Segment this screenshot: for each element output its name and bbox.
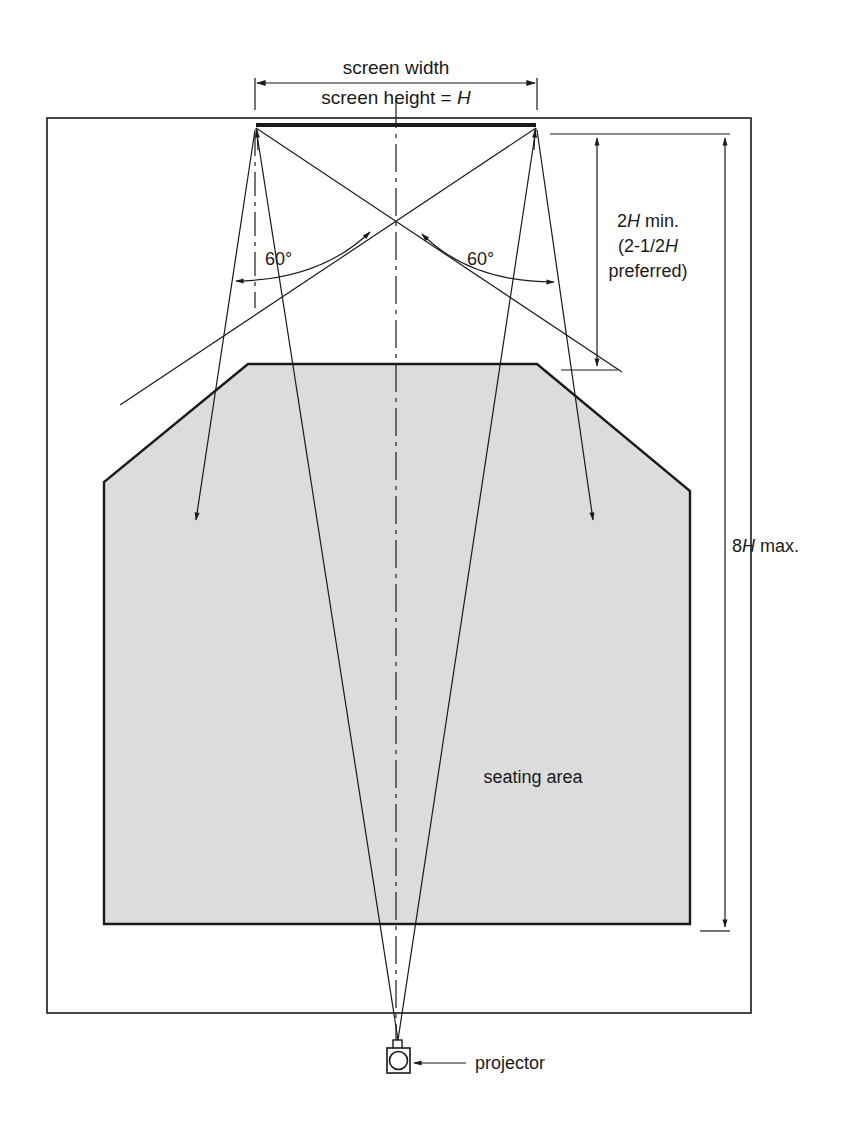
angle-label-right: 60° [467, 249, 494, 269]
projector-label: projector [475, 1053, 545, 1073]
sight-line-left-to-right [256, 128, 622, 372]
angle-label-left: 60° [265, 249, 292, 269]
max-distance-label: 8H max. [732, 536, 799, 556]
screen-width-label: screen width [343, 57, 450, 78]
projection-room-diagram: screen width screen height = H 60° 60° 2… [0, 0, 861, 1136]
preferred-distance-label-line1: (2-1/2H [618, 236, 679, 256]
preferred-distance-label-line2: preferred) [608, 261, 687, 281]
min-distance-label: 2H min. [617, 211, 679, 231]
angle-arc-left [236, 232, 370, 281]
seating-area-label: seating area [483, 767, 583, 787]
max-distance-label-bg [730, 533, 731, 534]
seating-area-polygon [104, 364, 690, 924]
screen-height-label: screen height = H [321, 87, 471, 108]
